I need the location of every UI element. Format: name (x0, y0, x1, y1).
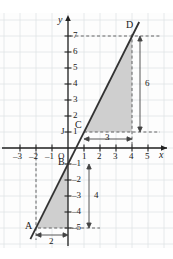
y-tick-label--1: –1 (72, 159, 81, 168)
y-axis-arrow (65, 15, 71, 21)
x-tick-label--2: –2 (29, 152, 38, 161)
x-tick-label-1: 1 (82, 152, 87, 161)
x-axis-name: x (159, 150, 163, 160)
point-label-a: A (25, 221, 32, 231)
y-tick-label--2: –2 (72, 175, 81, 184)
y-tick-label-3: 3 (73, 95, 78, 104)
y-tick-label--5: –5 (72, 223, 81, 232)
x-tick-label-5: 5 (145, 152, 150, 161)
x-tick-label-3: 3 (113, 152, 118, 161)
measure-label-run-top: 3 (105, 133, 110, 142)
measure-label-rise-top: 6 (145, 79, 150, 88)
y-tick-label--4: –4 (72, 207, 81, 216)
y-tick-label-7: 7 (73, 31, 78, 40)
point-label-b: B (58, 157, 65, 167)
y-tick-label--3: –3 (72, 191, 81, 200)
y-tick-label-4: 4 (73, 79, 78, 88)
x-tick-label--3: –3 (13, 152, 22, 161)
y-axis-name: y (58, 15, 62, 25)
label-j: J (61, 127, 65, 136)
point-label-d: D (126, 20, 133, 30)
x-tick-label-2: 2 (97, 152, 102, 161)
y-tick-label-6: 6 (73, 47, 78, 56)
x-tick-label--1: –1 (45, 152, 54, 161)
measure-label-rise-bottom: 4 (94, 191, 99, 200)
y-tick-label-5: 5 (73, 63, 78, 72)
measure-label-run-bottom: 2 (49, 237, 54, 246)
point-label-c: C (75, 120, 82, 130)
x-tick-label-4: 4 (129, 152, 134, 161)
figure-container: –3 –2 –1 O 1 2 3 4 5 x 7 6 5 4 3 2 1 –1 … (0, 0, 173, 259)
